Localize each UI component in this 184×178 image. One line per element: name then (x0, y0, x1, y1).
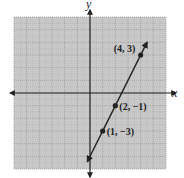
point-label: (1, −3) (107, 126, 134, 138)
point-marker (113, 103, 118, 108)
x-axis-label: x (171, 86, 178, 100)
point-marker (138, 52, 143, 57)
coordinate-plane: (4, 3)(2, −1)(1, −3) x y (0, 0, 184, 178)
point-marker (100, 128, 105, 133)
point-label: (2, −1) (119, 101, 146, 113)
y-axis-label: y (85, 0, 92, 11)
point-label: (4, 3) (114, 43, 136, 55)
